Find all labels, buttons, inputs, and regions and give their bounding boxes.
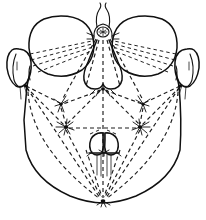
insect-head-diagram (0, 0, 206, 220)
right-genal-node (178, 84, 182, 87)
figure-root (0, 0, 206, 220)
left-genal-node (24, 84, 28, 87)
clypeal-apex-node (101, 87, 105, 90)
